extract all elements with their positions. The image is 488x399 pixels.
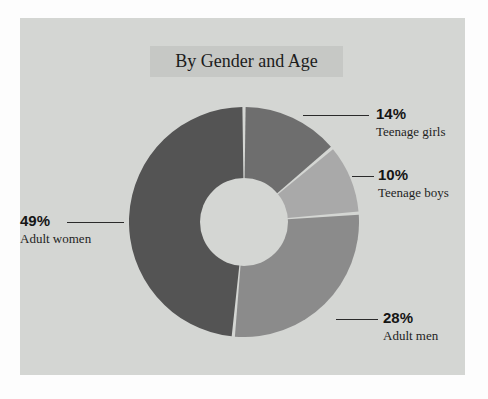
callout-label-adult-women: Adult women	[20, 230, 91, 247]
callout-adult-women: 49% Adult women	[20, 212, 91, 247]
leader-line-teenage-girls	[303, 115, 369, 116]
callout-label-adult-men: Adult men	[383, 327, 438, 344]
callout-label-teenage-boys: Teenage boys	[378, 184, 449, 201]
callout-value-teenage-boys: 10%	[378, 166, 449, 183]
page-title: By Gender and Age	[150, 46, 343, 77]
chart-page: By Gender and Age 14% Teenage girls 10% …	[0, 0, 488, 399]
leader-line-teenage-boys	[352, 176, 374, 177]
callout-value-adult-women: 49%	[20, 212, 91, 229]
callout-teenage-boys: 10% Teenage boys	[378, 166, 449, 201]
leader-line-adult-men	[336, 319, 378, 320]
donut-hole	[200, 178, 288, 266]
callout-label-teenage-girls: Teenage girls	[376, 123, 445, 140]
chart-title-band: By Gender and Age	[150, 46, 343, 77]
callout-value-adult-men: 28%	[383, 309, 438, 326]
callout-value-teenage-girls: 14%	[376, 105, 445, 122]
donut-chart	[129, 107, 359, 337]
callout-adult-men: 28% Adult men	[383, 309, 438, 344]
callout-teenage-girls: 14% Teenage girls	[376, 105, 445, 140]
donut-svg	[129, 107, 359, 337]
